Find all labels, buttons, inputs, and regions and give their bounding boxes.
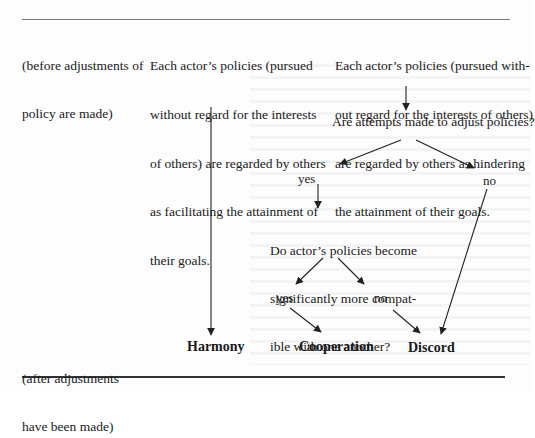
outcome-cooperation: Cooperation [299,339,374,355]
adjust-yes-label: yes [298,171,315,187]
outcome-harmony: Harmony [187,339,245,355]
after-label-line-1: (after adjustments [22,371,119,387]
facilitating-line-2: without regard for the interests [150,107,326,123]
adjust-policies-question: Are attempts made to adjust policies? [332,114,535,130]
outcome-discord: Discord [408,340,455,356]
before-label-line-1: (before adjustments of [22,58,143,74]
adjust-no-label: no [483,173,496,189]
compatible-line-1: Do actor’s policies become [270,243,417,259]
after-label-line-2: have been made) [22,419,119,435]
compatible-yes-label: yes [276,290,293,306]
hindering-line-3: are regarded by others as hindering [335,156,533,172]
before-label-line-2: policy are made) [22,106,143,122]
after-adjustments-label: (after adjustments have been made) [22,339,119,438]
top-rule [22,19,510,20]
facilitating-line-1: Each actor’s policies (pursued [150,58,326,74]
compatible-no-label: no [374,290,387,306]
facilitating-line-3: of others) are regarded by others [150,156,326,172]
before-adjustments-label: (before adjustments of policy are made) [22,26,143,154]
hindering-line-1: Each actor’s policies (pursued with- [335,58,533,74]
